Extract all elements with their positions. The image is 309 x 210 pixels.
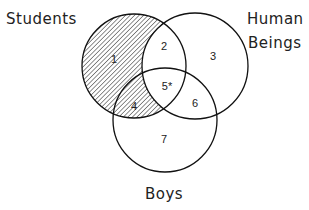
region-5-label: 5* <box>162 80 173 92</box>
region-3-label: 3 <box>210 50 216 62</box>
region-7-label: 7 <box>161 133 167 145</box>
region-2-label: 2 <box>161 40 167 52</box>
venn-diagram: Students Human Beings Boys 1 2 3 4 5* 6 … <box>0 0 309 210</box>
region-1-label: 1 <box>111 53 117 65</box>
region-4-label: 4 <box>131 100 137 112</box>
region-6-label: 6 <box>192 97 198 109</box>
human-beings-label-line2: Beings <box>248 34 302 52</box>
human-beings-label-line1: Human <box>247 10 304 28</box>
students-label: Students <box>6 10 77 28</box>
boys-label: Boys <box>145 185 183 203</box>
